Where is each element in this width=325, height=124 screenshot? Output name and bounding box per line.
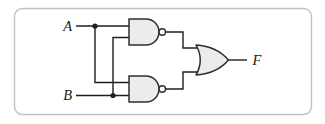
- circuit-frame: [15, 9, 312, 115]
- wire-branch-b: [113, 38, 129, 96]
- output-f-label: F: [252, 52, 262, 68]
- nand-gate-top: [129, 19, 166, 45]
- or-gate-body: [196, 45, 229, 75]
- junction-dot-b: [110, 93, 115, 98]
- junction-dot-a: [92, 23, 97, 28]
- inverter-bubble-bottom-icon: [159, 86, 165, 92]
- input-b-label: B: [63, 87, 72, 103]
- inverter-bubble-top-icon: [159, 29, 165, 35]
- junctions: [92, 23, 115, 98]
- nand-gate-top-body: [129, 19, 159, 45]
- nand-gate-bottom-body: [129, 76, 159, 102]
- nand-gate-bottom: [129, 76, 166, 102]
- input-a-label: A: [62, 18, 72, 34]
- circuit-figure: A B F: [0, 0, 325, 124]
- or-gate: [196, 45, 229, 75]
- wire-branch-a: [95, 26, 129, 83]
